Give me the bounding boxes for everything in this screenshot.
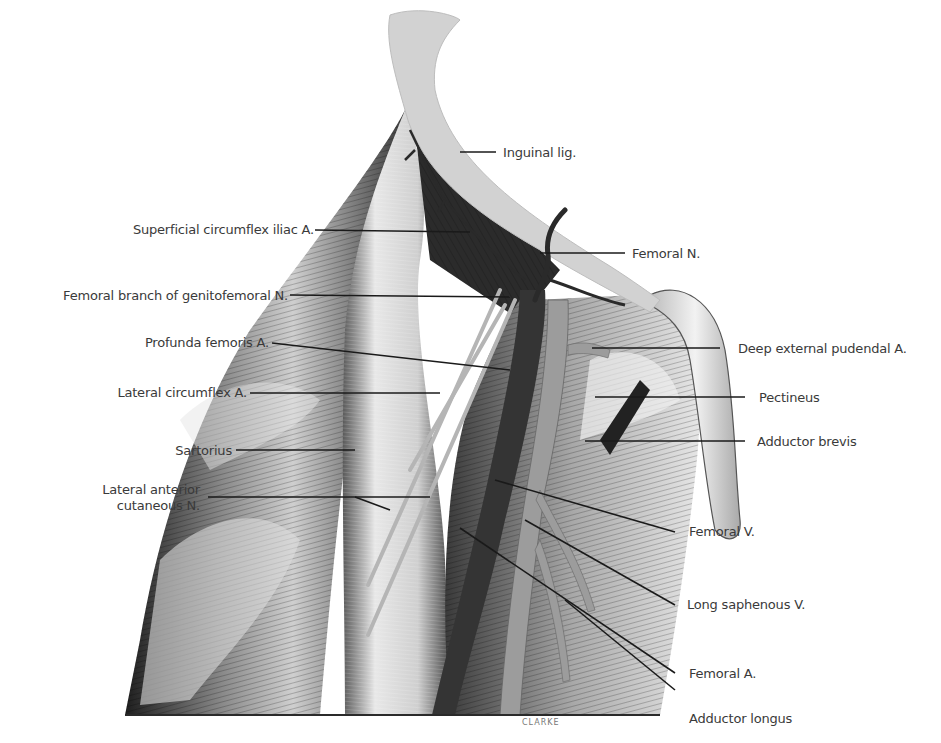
anatomy-illustration	[0, 0, 941, 743]
label-inguinal-lig: Inguinal lig.	[503, 145, 576, 160]
label-femoral-branch-genitofemoral-n: Femoral branch of genitofemoral N.	[63, 288, 288, 303]
label-superficial-circumflex-iliac-a: Superficial circumflex iliac A.	[133, 222, 314, 237]
label-lateral-anterior-cutaneous-n-line2: cutaneous N.	[117, 498, 200, 513]
label-adductor-brevis: Adductor brevis	[757, 434, 856, 449]
label-long-saphenous-v: Long saphenous V.	[687, 597, 805, 612]
label-lateral-anterior-cutaneous-n-line1: Lateral anterior	[102, 482, 200, 497]
label-femoral-n: Femoral N.	[632, 246, 700, 261]
label-femoral-v: Femoral V.	[689, 524, 755, 539]
label-sartorius: Sartorius	[175, 443, 232, 458]
label-profunda-femoris-a: Profunda femoris A.	[145, 335, 269, 350]
label-adductor-longus: Adductor longus	[689, 711, 792, 726]
label-femoral-a: Femoral A.	[689, 666, 756, 681]
label-pectineus: Pectineus	[759, 390, 820, 405]
artist-signature: CLARKE	[522, 718, 560, 727]
label-deep-external-pudendal-a: Deep external pudendal A.	[738, 341, 907, 356]
label-lateral-circumflex-a: Lateral circumflex A.	[117, 385, 247, 400]
